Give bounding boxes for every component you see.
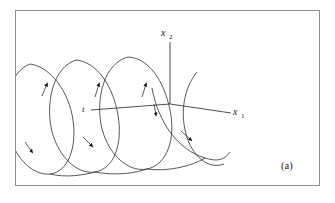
figure-caption: (a) xyxy=(281,160,293,172)
x2-label-subscript: 2 xyxy=(169,33,173,41)
x1-label-subscript: 1 xyxy=(241,112,245,120)
figure-frame xyxy=(16,11,320,186)
x2-label-base: x xyxy=(160,27,166,38)
x1-label-base: x xyxy=(232,106,238,117)
helix-figure-svg: x 2 x 1 t (a) xyxy=(0,0,335,203)
figure-panel: x 2 x 1 t (a) xyxy=(0,0,335,203)
